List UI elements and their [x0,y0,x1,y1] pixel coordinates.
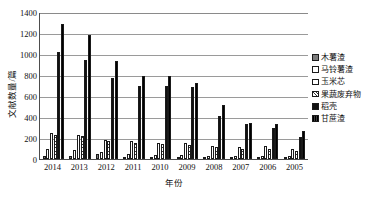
legend-swatch-icon-dark-hatch [312,115,319,122]
bar-甘蔗渣-2011 [142,76,145,159]
bar-马铃薯渣-2005 [288,156,291,159]
legend-swatch-icon-white-solid [312,79,319,86]
y-tick-400: 400 [1,114,37,123]
y-tick-1000: 1000 [1,51,37,60]
legend-swatch-icon-diagonal-hatch [312,91,319,98]
x-tick-2011: 2011 [120,162,147,172]
bar-甘蔗渣-2012 [115,61,118,159]
legend-label: 木薯渣 [321,53,345,62]
y-tick-1200: 1200 [1,30,37,39]
y-tick-600: 600 [1,93,37,102]
bar-玉米芯-2010 [157,143,160,159]
x-axis-tick-labels: 2014201320122011201020092008200720062005 [39,162,308,172]
legend-item-马铃薯渣[interactable]: 马铃薯渣 [312,64,361,75]
legend-item-果蔬废弃物[interactable]: 果蔬废弃物 [312,89,361,100]
y-tick-1400: 1400 [1,9,37,18]
bar-groups [40,13,308,159]
bar-马铃薯渣-2009 [180,155,183,159]
x-tick-2006: 2006 [254,162,281,172]
bar-木薯渣-2013 [69,156,72,159]
bar-马铃薯渣-2013 [73,150,76,159]
bar-玉米芯-2009 [184,143,187,159]
bar-木薯渣-2005 [284,157,287,159]
bar-木薯渣-2007 [230,157,233,159]
legend-label: 稻壳 [321,102,337,111]
legend-label: 马铃薯渣 [321,65,353,74]
legend-item-甘蔗渣[interactable]: 甘蔗渣 [312,113,361,124]
y-axis-tick-labels: 1400120010008006004002000 [0,0,37,202]
bar-稻壳-2007 [245,124,248,159]
bar-玉米芯-2013 [77,135,80,159]
bar-甘蔗渣-2013 [88,35,91,159]
bar-玉米芯-2011 [130,141,133,159]
bar-甘蔗渣-2008 [222,105,225,159]
x-tick-2014: 2014 [39,162,66,172]
bar-果蔬废弃物-2005 [295,151,298,159]
bar-甘蔗渣-2009 [195,83,198,159]
bar-稻壳-2010 [165,86,168,160]
x-tick-2005: 2005 [281,162,308,172]
bar-group-2009 [174,13,201,159]
legend-item-木薯渣[interactable]: 木薯渣 [312,52,361,63]
bar-马铃薯渣-2011 [127,154,130,159]
x-tick-2012: 2012 [93,162,120,172]
bar-木薯渣-2010 [150,157,153,159]
bar-甘蔗渣-2007 [249,123,252,159]
bar-木薯渣-2014 [43,156,46,159]
bar-稻壳-2006 [272,128,275,160]
bar-果蔬废弃物-2011 [134,143,137,159]
bar-玉米芯-2008 [211,146,214,159]
bar-甘蔗渣-2010 [168,76,171,159]
x-tick-2009: 2009 [174,162,201,172]
bar-稻壳-2013 [84,60,87,159]
bar-果蔬废弃物-2014 [54,135,57,159]
chart-legend: 木薯渣马铃薯渣玉米芯果蔬废弃物稻壳甘蔗渣 [312,52,361,124]
bar-group-2010 [147,13,174,159]
x-axis-title: 年份 [39,176,308,188]
bar-果蔬废弃物-2006 [268,149,271,159]
bar-甘蔗渣-2005 [302,131,305,159]
legend-label: 甘蔗渣 [321,114,345,123]
bar-group-2013 [67,13,94,159]
bar-玉米芯-2005 [291,149,294,159]
bar-玉米芯-2014 [50,133,53,159]
bar-木薯渣-2009 [177,157,180,159]
x-tick-2007: 2007 [227,162,254,172]
bar-马铃薯渣-2008 [207,156,210,159]
bar-果蔬废弃物-2013 [81,136,84,159]
bar-group-2005 [281,13,308,159]
bar-稻壳-2008 [218,116,221,159]
bar-稻壳-2014 [57,52,60,159]
legend-swatch-icon-black-solid [312,103,319,110]
bar-果蔬废弃物-2010 [161,144,164,159]
legend-label: 果蔬废弃物 [321,90,361,99]
y-tick-800: 800 [1,72,37,81]
legend-label: 玉米芯 [321,77,345,86]
bar-木薯渣-2006 [257,157,260,159]
bar-甘蔗渣-2006 [275,124,278,159]
bar-木薯渣-2011 [123,157,126,159]
bar-木薯渣-2012 [96,154,99,159]
bar-果蔬废弃物-2009 [188,145,191,159]
bar-玉米芯-2007 [238,147,241,159]
bar-group-2006 [254,13,281,159]
legend-item-稻壳[interactable]: 稻壳 [312,101,361,112]
bar-group-2007 [228,13,255,159]
bar-果蔬废弃物-2008 [215,147,218,159]
legend-item-玉米芯[interactable]: 玉米芯 [312,76,361,87]
bar-果蔬废弃物-2007 [241,149,244,160]
bar-果蔬废弃物-2012 [107,141,110,159]
bar-稻壳-2005 [299,137,302,159]
bar-玉米芯-2012 [104,140,107,159]
y-tick-200: 200 [1,135,37,144]
bar-chart-figure: 文献数量/篇 1400120010008006004002000 2014201… [0,0,384,202]
legend-swatch-icon-gray-solid [312,54,319,61]
x-tick-2008: 2008 [200,162,227,172]
bar-稻壳-2012 [111,78,114,159]
bar-group-2012 [94,13,121,159]
y-tick-0: 0 [1,156,37,165]
bar-group-2011 [120,13,147,159]
plot-area [39,13,308,160]
bar-马铃薯渣-2012 [100,152,103,159]
x-tick-2010: 2010 [147,162,174,172]
